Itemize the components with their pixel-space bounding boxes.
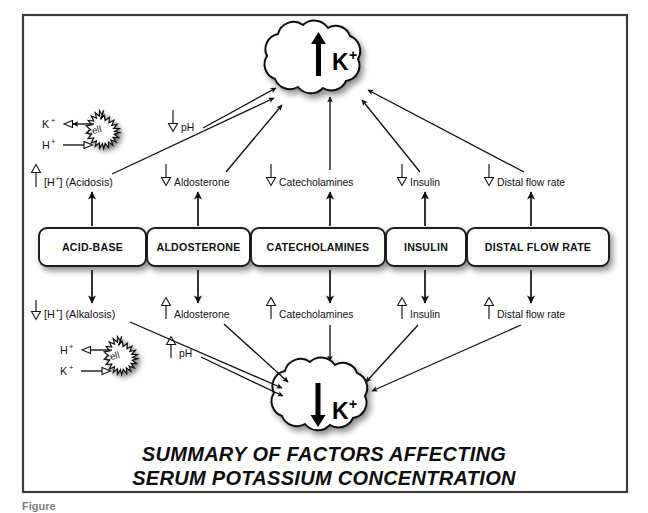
lower-cell-influx-superscript: +: [69, 363, 73, 372]
upper-effect-catecholamines-label: Catecholamines: [279, 177, 354, 188]
upper-effect-insulin-label: Insulin: [410, 177, 440, 188]
upper-effect-aldosterone-label: Aldosterone: [174, 177, 230, 188]
lower-effect-catecholamines-label: Catecholamines: [279, 309, 354, 320]
ph-marker-upper-label: pH: [181, 122, 194, 133]
figure-title-line-1: SUMMARY OF FACTORS AFFECTING: [142, 443, 506, 465]
upper-cell-influx-superscript: +: [51, 137, 55, 146]
upper-cell-efflux-superscript: +: [51, 116, 55, 125]
factor-box-label-distal-flow-rate: DISTAL FLOW RATE: [485, 241, 591, 253]
decrease-cloud-k-label: K: [332, 398, 349, 424]
lower-cell-influx-ion: K: [60, 365, 68, 377]
increase-cloud-k-label: K: [332, 49, 349, 75]
lower-effect-alkalosis-label-tail: ] (Alkalosis): [60, 308, 116, 320]
lower-effect-distal-flow-rate-label: Distal flow rate: [497, 309, 565, 320]
upper-effect-distal-flow-rate-label: Distal flow rate: [497, 177, 565, 188]
upper-cell-efflux-ion: K: [42, 118, 50, 130]
upper-cell-influx-ion: H: [42, 139, 50, 151]
potassium-factors-diagram: K + K + ACID-BASE ALDOSTERONE CATECHOLAM…: [0, 0, 648, 513]
figure-root: K + K + ACID-BASE ALDOSTERONE CATECHOLAM…: [0, 0, 648, 513]
decrease-cloud-k-superscript: +: [349, 396, 357, 412]
lower-effect-alkalosis-label: [H: [44, 308, 55, 320]
ph-marker-lower-label: pH: [179, 348, 192, 359]
factor-box-label-aldosterone: ALDOSTERONE: [157, 241, 241, 253]
increase-cloud-k-superscript: +: [349, 47, 357, 63]
lower-effect-aldosterone-label: Aldosterone: [174, 309, 230, 320]
lower-cell-efflux-superscript: +: [69, 342, 73, 351]
factor-box-label-acid-base: ACID-BASE: [62, 241, 123, 253]
upper-effect-acidosis-label-tail: ] (Acidosis): [60, 176, 113, 188]
figure-title-line-2: SERUM POTASSIUM CONCENTRATION: [132, 467, 516, 489]
factor-box-label-insulin: INSULIN: [404, 241, 448, 253]
upper-effect-acidosis-label: [H: [44, 176, 55, 188]
lower-effect-insulin-label: Insulin: [410, 309, 440, 320]
figure-caption: Figure: [22, 500, 56, 512]
lower-cell-efflux-ion: H: [60, 344, 68, 356]
factor-box-label-catecholamines: CATECHOLAMINES: [267, 241, 370, 253]
